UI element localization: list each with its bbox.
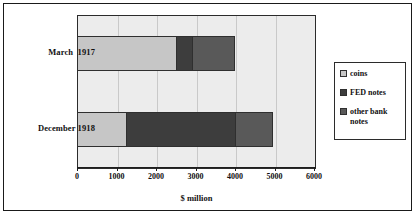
x-axis-tick bbox=[196, 167, 197, 171]
x-axis-tick bbox=[77, 167, 78, 171]
legend-item-coins: coins bbox=[340, 69, 401, 79]
x-axis-tick-label: 0 bbox=[75, 172, 79, 181]
legend-item-other-bank-notes: other bank notes bbox=[340, 107, 401, 127]
x-axis-tick-label: 2000 bbox=[148, 172, 164, 181]
legend-swatch-coins bbox=[340, 70, 347, 77]
x-axis-tick-label: 5000 bbox=[267, 172, 283, 181]
legend-label-other-bank-notes: other bank notes bbox=[350, 107, 398, 127]
x-axis-tick-label: 4000 bbox=[227, 172, 243, 181]
x-axis-tick-label: 6000 bbox=[306, 172, 322, 181]
x-axis-tick bbox=[314, 167, 315, 171]
chart-figure: $ million coins FED notes other bank not… bbox=[3, 3, 412, 211]
bar-segment bbox=[192, 36, 235, 71]
legend-label-fed-notes: FED notes bbox=[350, 88, 386, 98]
legend-item-fed-notes: FED notes bbox=[340, 88, 401, 98]
bar-segment bbox=[176, 36, 192, 71]
chart-legend: coins FED notes other bank notes bbox=[334, 62, 406, 140]
bar-stack bbox=[77, 36, 235, 71]
category-label: December 1918 bbox=[38, 123, 95, 133]
legend-swatch-other-bank-notes bbox=[340, 108, 347, 115]
bar-segment bbox=[235, 112, 273, 147]
category-label: March 1917 bbox=[48, 47, 95, 57]
x-axis-title: $ million bbox=[77, 193, 316, 203]
x-axis-tick-label: 1000 bbox=[109, 172, 125, 181]
x-axis-tick bbox=[235, 167, 236, 171]
x-axis-tick bbox=[117, 167, 118, 171]
x-axis-tick bbox=[275, 167, 276, 171]
x-axis-tick-label: 3000 bbox=[188, 172, 204, 181]
legend-label-coins: coins bbox=[350, 69, 367, 79]
x-axis-line bbox=[77, 167, 316, 168]
x-axis-tick bbox=[156, 167, 157, 171]
bar-stack bbox=[77, 112, 273, 147]
legend-swatch-fed-notes bbox=[340, 89, 347, 96]
gridline bbox=[276, 16, 277, 168]
bar-segment bbox=[126, 112, 235, 147]
